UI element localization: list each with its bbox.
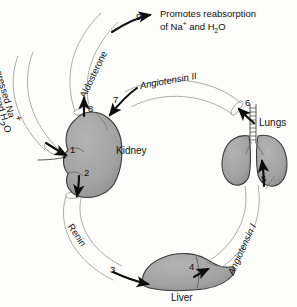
step-number-3: 3	[110, 265, 115, 276]
raas-cycle-illustration	[0, 0, 297, 307]
diagram-canvas: Promotes reabsorption of Na+ and H2O Dep…	[0, 0, 297, 307]
outcome-text: Promotes reabsorption of Na+ and H2O	[160, 8, 256, 35]
step-number-4: 4	[189, 262, 194, 273]
outcome-line-2: of Na+ and H2O	[160, 20, 256, 35]
step-number-7: 7	[113, 95, 118, 106]
organ-label-lungs: Lungs	[259, 117, 286, 129]
organ-label-kidney: Kidney	[116, 145, 147, 157]
step-number-8: 8	[88, 104, 93, 115]
step-number-5: 5	[261, 174, 266, 185]
step-number-1: 1	[70, 145, 75, 156]
step-number-6: 6	[245, 98, 250, 109]
outcome-line-1: Promotes reabsorption	[160, 8, 256, 20]
step-number-9: 9	[136, 12, 141, 23]
organ-label-liver: Liver	[171, 292, 193, 304]
step-number-2: 2	[84, 168, 89, 179]
